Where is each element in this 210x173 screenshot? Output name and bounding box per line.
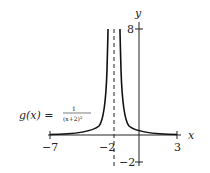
x-tick-label-neg7: −7 (42, 141, 58, 154)
y-tick-label-neg2: −2 (119, 156, 135, 169)
function-graph: y x 8 −2 −7 −2 3 g(x) = 1 (x+2)² (0, 0, 210, 173)
function-label-denominator: (x+2)² (63, 115, 83, 122)
plot-canvas: y x 8 −2 −7 −2 3 g(x) = 1 (x+2)² (0, 0, 210, 173)
x-tick-label-neg2: −2 (99, 141, 115, 154)
curve-right-branch (120, 29, 177, 135)
function-label-lhs: g(x) = (19, 109, 54, 122)
x-tick-label-3: 3 (174, 141, 181, 154)
y-tick-label-8: 8 (127, 23, 134, 36)
y-axis-label: y (134, 7, 142, 20)
function-label-numerator: 1 (72, 105, 76, 112)
x-axis-label: x (188, 129, 195, 142)
